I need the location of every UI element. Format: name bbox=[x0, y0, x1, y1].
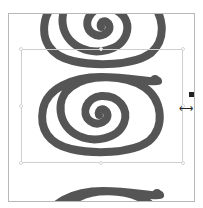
editor-canvas: ⟷ bbox=[0, 0, 203, 208]
handle-top-left[interactable] bbox=[19, 47, 23, 51]
selection-box[interactable] bbox=[21, 49, 183, 163]
anchor-marker-icon[interactable] bbox=[189, 92, 194, 97]
handle-bottom-left[interactable] bbox=[19, 161, 23, 165]
handle-bottom-right[interactable] bbox=[181, 161, 185, 165]
resize-cursor-icon: ⟷ bbox=[179, 104, 193, 114]
handle-middle-left[interactable] bbox=[19, 104, 23, 108]
handle-top-center[interactable] bbox=[99, 47, 103, 51]
handle-top-right[interactable] bbox=[181, 47, 185, 51]
handle-bottom-center[interactable] bbox=[99, 161, 103, 165]
